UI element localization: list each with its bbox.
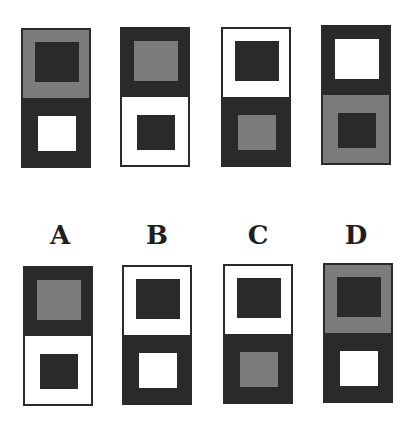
bottom-half [325, 333, 391, 401]
sequence-panel-4 [321, 25, 391, 165]
sequence-panel-1 [21, 28, 91, 168]
center-square [139, 353, 177, 388]
bottom-half [23, 98, 89, 166]
center-square [37, 280, 81, 320]
bottom-half [122, 97, 188, 165]
bottom-half [223, 97, 289, 165]
bottom-half [124, 335, 190, 403]
option-panel-d[interactable] [323, 263, 393, 403]
center-square [136, 279, 180, 319]
option-label-d: D [336, 222, 376, 248]
sequence-panel-2 [120, 27, 190, 167]
option-panel-a[interactable] [23, 266, 93, 406]
top-half [225, 266, 291, 334]
top-half [325, 265, 391, 333]
top-half [323, 27, 389, 95]
center-square [340, 351, 378, 386]
center-square [337, 277, 381, 317]
center-square [338, 113, 376, 148]
center-square [137, 115, 175, 150]
top-half [223, 29, 289, 97]
center-square [38, 116, 76, 151]
bottom-half [225, 334, 291, 402]
option-label-c: C [238, 222, 278, 248]
option-panel-b[interactable] [122, 265, 192, 405]
center-square [235, 41, 279, 81]
option-label-b: B [137, 222, 177, 248]
center-square [134, 41, 178, 81]
center-square [240, 352, 278, 387]
option-label-a: A [40, 222, 80, 248]
top-half [23, 30, 89, 98]
bottom-half [323, 95, 389, 163]
bottom-half [25, 336, 91, 404]
sequence-panel-3 [221, 27, 291, 167]
center-square [335, 39, 379, 79]
option-panel-c[interactable] [223, 264, 293, 404]
center-square [237, 278, 281, 318]
center-square [35, 42, 79, 82]
center-square [238, 115, 276, 150]
top-half [124, 267, 190, 335]
top-half [122, 29, 188, 97]
top-half [25, 268, 91, 336]
center-square [40, 354, 78, 389]
